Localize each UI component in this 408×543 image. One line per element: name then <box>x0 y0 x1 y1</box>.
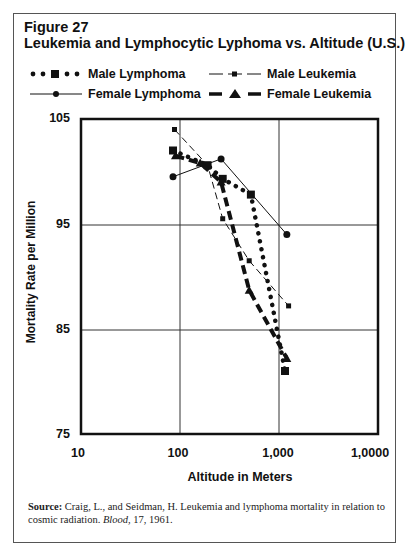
y-tick-75: 75 <box>40 427 70 441</box>
y-tick-85: 85 <box>40 322 70 336</box>
data-point <box>281 367 289 375</box>
y-axis-label: Mortality Rate per Million <box>24 187 38 357</box>
x-tick-100: 100 <box>148 446 208 460</box>
source-tail: , 17, 1961. <box>128 514 173 525</box>
data-point <box>247 258 252 263</box>
y-tick-95: 95 <box>40 217 70 231</box>
source-label: Source: <box>28 501 62 512</box>
series-female-lymphoma <box>170 155 291 238</box>
x-axis-label: Altitude in Meters <box>140 470 340 484</box>
data-point <box>172 127 177 132</box>
data-point <box>283 231 290 238</box>
data-point <box>170 173 177 180</box>
data-point <box>220 216 225 221</box>
x-tick-1000: 1,000 <box>248 446 308 460</box>
x-tick-10000: 1,0000 <box>340 446 400 460</box>
data-point <box>245 286 254 294</box>
data-point <box>286 303 291 308</box>
plot-frame <box>81 119 378 434</box>
source-text: Craig, L., and Seidman, H. Leukemia and … <box>28 501 385 525</box>
data-point <box>247 191 255 199</box>
y-tick-105: 105 <box>40 111 70 125</box>
data-point <box>218 155 225 162</box>
series-layer <box>169 127 291 375</box>
source-citation: Source: Craig, L., and Seidman, H. Leuke… <box>28 500 388 526</box>
x-tick-10: 10 <box>48 446 108 460</box>
series-male-lymphoma <box>169 147 289 376</box>
source-journal: Blood <box>103 514 128 525</box>
